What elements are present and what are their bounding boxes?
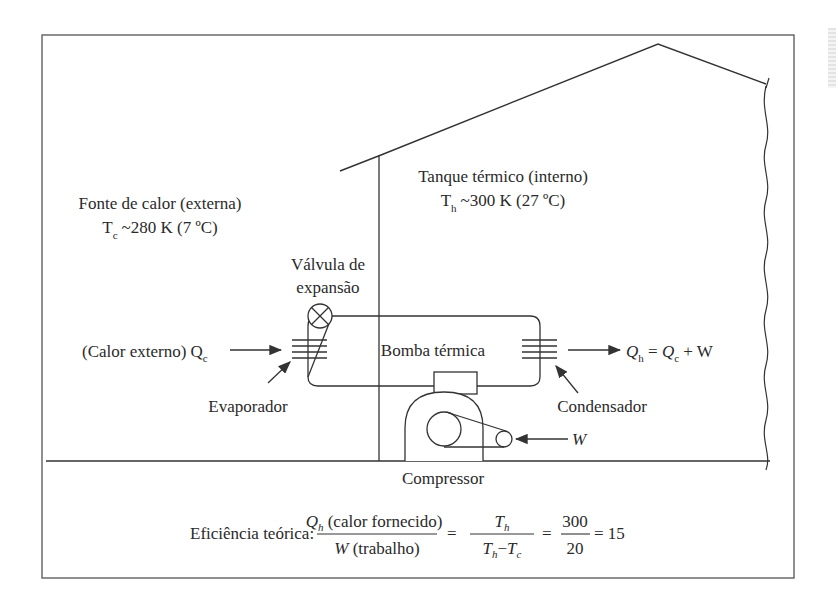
- efficiency-label: Eficiência teórica:: [190, 524, 314, 543]
- compressor-label: Compressor: [402, 469, 485, 488]
- evaporator-label: Evaporador: [208, 397, 288, 416]
- efficiency-result: = 15: [594, 524, 625, 543]
- efficiency-numerator: Qh (calor fornecido): [306, 512, 443, 533]
- valve-label-line2: expansão: [296, 278, 359, 297]
- scan-artifact-strip: [828, 28, 836, 88]
- outside-label: Fonte de calor (externa): [79, 194, 242, 213]
- numeric-numerator: 300: [562, 512, 588, 531]
- figure-frame: [42, 35, 794, 578]
- condenser-label: Condensador: [557, 397, 647, 416]
- efficiency-formula: Eficiência teórica: Qh (calor fornecido)…: [190, 512, 625, 560]
- numeric-denominator: 20: [567, 539, 584, 558]
- heat-in-label: (Calor externo) Qc: [82, 342, 208, 364]
- carnot-denominator: Th−Tc: [483, 539, 522, 560]
- heat-pump-diagram: Fonte de calor (externa) Tc~280 K (7 ºC)…: [0, 0, 838, 598]
- evaporator-pointer-arrow-icon: [268, 362, 290, 383]
- diagram-canvas: Fonte de calor (externa) Tc~280 K (7 ºC)…: [0, 0, 838, 598]
- inside-temp: Th~300 K (27 ºC): [441, 191, 566, 214]
- equals-sign: =: [542, 524, 552, 543]
- carnot-numerator: Th: [495, 512, 510, 533]
- work-label: W: [572, 430, 588, 449]
- heat-out-formula: Qh = Qc + W: [626, 342, 714, 364]
- valve-label-line1: Válvula de: [291, 255, 365, 274]
- expansion-valve-icon: [308, 304, 332, 328]
- outside-temp: Tc~280 K (7 ºC): [102, 218, 217, 241]
- condenser-pointer-arrow-icon: [556, 366, 578, 393]
- equals-sign: =: [447, 524, 457, 543]
- inside-label: Tanque térmico (interno): [418, 167, 588, 186]
- house-roof: [340, 44, 766, 171]
- efficiency-denominator: W (trabalho): [334, 539, 419, 558]
- house-cutaway-wall: [764, 86, 767, 470]
- pump-label: Bomba térmica: [381, 341, 486, 360]
